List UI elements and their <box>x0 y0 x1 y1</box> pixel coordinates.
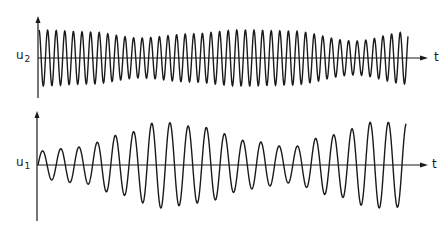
u1-y-axis-arrow-icon <box>35 111 40 118</box>
u1-plot <box>35 111 429 221</box>
waveform-canvas <box>0 0 448 233</box>
u1-label-subscript: 1 <box>25 161 31 171</box>
u2-label-subscript: 2 <box>25 54 31 64</box>
u2-time-axis-arrow-icon <box>420 56 428 61</box>
u1-axis-label: u1 <box>16 155 30 169</box>
u1-t-text: t <box>432 157 437 171</box>
u1-label-text: u <box>16 155 24 169</box>
u2-t-text: t <box>434 50 439 64</box>
u2-label-text: u <box>16 48 24 62</box>
u1-time-label: t <box>432 157 437 171</box>
u2-plot <box>36 16 429 98</box>
coupled-oscillation-diagram: u2 t u1 t <box>0 0 448 233</box>
u2-y-axis-arrow-icon <box>36 16 41 23</box>
u2-axis-label: u2 <box>16 48 30 62</box>
u2-time-label: t <box>434 50 439 64</box>
u1-time-axis-arrow-icon <box>420 163 428 168</box>
